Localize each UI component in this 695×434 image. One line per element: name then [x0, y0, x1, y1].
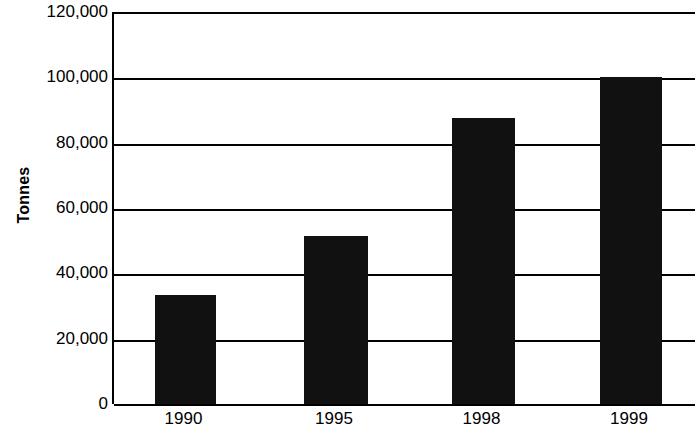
bar — [304, 236, 368, 404]
axis-baseline — [114, 404, 695, 406]
y-axis-tick-labels: 020,00040,00060,00080,000100,000120,000 — [0, 0, 108, 434]
bar — [155, 295, 216, 404]
bar — [600, 77, 662, 404]
x-tick-label: 1995 — [282, 408, 386, 430]
y-tick-label: 20,000 — [4, 330, 108, 347]
x-axis-tick-labels: 1990199519981999 — [112, 408, 695, 434]
x-tick-label: 1990 — [133, 408, 234, 430]
y-tick-label: 60,000 — [4, 199, 108, 216]
plot-area — [112, 12, 695, 404]
y-tick-label: 100,000 — [4, 68, 108, 85]
y-tick-label: 0 — [4, 395, 108, 412]
bar — [452, 118, 515, 404]
x-tick-label: 1999 — [578, 408, 680, 430]
bar-chart: Tonnes 020,00040,00060,00080,000100,0001… — [0, 0, 695, 434]
x-tick-label: 1998 — [430, 408, 533, 430]
y-tick-label: 80,000 — [4, 134, 108, 151]
y-tick-label: 120,000 — [4, 3, 108, 20]
y-tick-label: 40,000 — [4, 264, 108, 281]
